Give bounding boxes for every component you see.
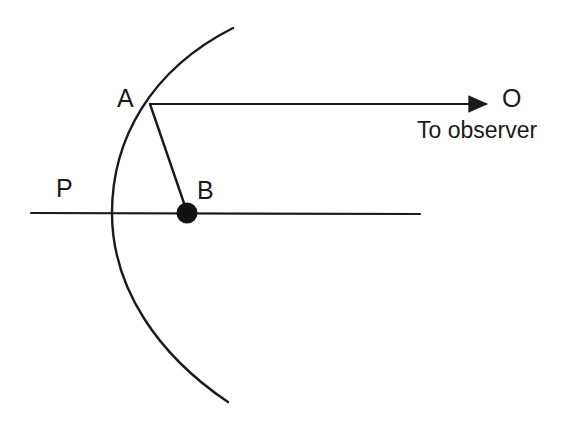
label-point-o: O [502,86,521,111]
label-point-b: B [197,178,214,203]
label-point-p: P [56,176,73,201]
label-to-observer: To observer [417,119,537,142]
diagram-canvas: A B P O To observer [0,0,575,421]
segment-a-to-b [150,104,186,209]
label-point-a: A [117,86,134,111]
axis-line [31,213,420,214]
diagram-svg [0,0,575,421]
scatterer-dot [177,203,198,224]
